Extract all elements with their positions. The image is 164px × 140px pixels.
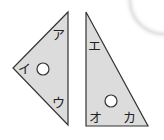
right-triangle-hole bbox=[105, 95, 117, 107]
left-set-square: ア イ ウ bbox=[13, 12, 68, 125]
angle-label-u: ウ bbox=[52, 95, 65, 110]
diagram-svg: ア イ ウ エ オ カ bbox=[0, 0, 164, 140]
set-squares-diagram: ア イ ウ エ オ カ bbox=[0, 0, 164, 140]
angle-label-a: ア bbox=[52, 27, 65, 42]
angle-label-ka: カ bbox=[123, 110, 136, 125]
angle-label-e: エ bbox=[88, 38, 101, 53]
page-curl-shadow bbox=[124, 0, 164, 40]
angle-label-i: イ bbox=[18, 61, 31, 76]
left-triangle-hole bbox=[37, 63, 49, 75]
angle-label-o: オ bbox=[89, 110, 102, 125]
